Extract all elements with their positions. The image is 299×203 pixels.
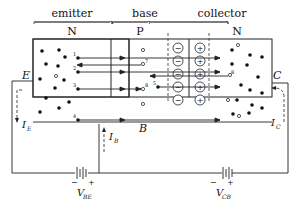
svg-text:B: B bbox=[113, 137, 119, 144]
battery-vbe bbox=[77, 167, 86, 179]
svg-text:−: − bbox=[175, 70, 182, 79]
carrier-number-labels: 1 7 2 8 3 8 5 4 bbox=[73, 51, 234, 119]
svg-text:+: + bbox=[197, 70, 204, 79]
type-label-collector: N bbox=[232, 25, 242, 38]
source-label-vcb: − + V CB bbox=[210, 178, 234, 200]
svg-text:4: 4 bbox=[73, 113, 76, 119]
svg-text:8: 8 bbox=[145, 82, 148, 88]
svg-text:8: 8 bbox=[231, 69, 234, 75]
svg-text:1: 1 bbox=[73, 51, 76, 57]
svg-text:−: − bbox=[175, 44, 182, 53]
current-label-ic: I C bbox=[270, 117, 281, 130]
svg-text:C: C bbox=[276, 123, 281, 130]
svg-text:+: + bbox=[88, 178, 95, 187]
terminal-label-emitter: E bbox=[21, 69, 30, 82]
current-label-ie: I E bbox=[21, 119, 32, 132]
holes bbox=[54, 43, 240, 117]
region-label-base: base bbox=[132, 7, 158, 20]
npn-transistor-diagram: emitter base collector N P N − + − + − +… bbox=[0, 0, 299, 203]
source-label-vbe: − + V BE bbox=[71, 178, 95, 200]
region-braces bbox=[34, 21, 228, 24]
svg-text:2: 2 bbox=[73, 65, 76, 71]
region-label-emitter: emitter bbox=[51, 7, 93, 20]
terminal-label-base: B bbox=[138, 122, 147, 135]
svg-text:+: + bbox=[197, 44, 204, 53]
svg-text:−: − bbox=[210, 178, 217, 187]
svg-text:5: 5 bbox=[153, 80, 156, 86]
type-label-emitter: N bbox=[67, 25, 77, 38]
current-label-ib: I B bbox=[108, 131, 119, 144]
svg-text:7: 7 bbox=[145, 58, 148, 64]
svg-text:+: + bbox=[197, 83, 204, 92]
svg-text:BE: BE bbox=[82, 193, 92, 200]
circuit-wires bbox=[12, 81, 288, 173]
svg-text:+: + bbox=[227, 178, 234, 187]
region-label-collector: collector bbox=[198, 7, 248, 20]
semiconductor-block bbox=[33, 39, 272, 97]
svg-text:+: + bbox=[197, 96, 204, 105]
svg-text:−: − bbox=[175, 83, 182, 92]
svg-text:CB: CB bbox=[222, 193, 232, 200]
svg-text:−: − bbox=[71, 178, 78, 187]
carrier-arrows bbox=[77, 56, 228, 122]
svg-text:−: − bbox=[175, 96, 182, 105]
svg-text:E: E bbox=[26, 125, 32, 132]
terminal-label-collector: C bbox=[273, 69, 282, 82]
type-label-base: P bbox=[136, 25, 144, 38]
svg-text:3: 3 bbox=[73, 82, 76, 88]
